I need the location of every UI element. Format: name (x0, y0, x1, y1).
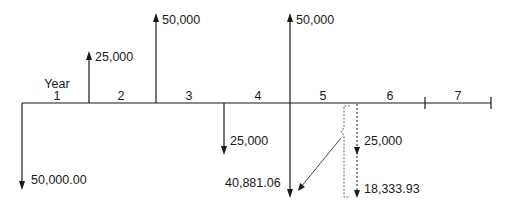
period-label-1: 1 (54, 90, 61, 103)
dashed-outflow-arrows (354, 104, 360, 198)
period-label-3: 3 (186, 90, 193, 103)
period-label-6: 6 (387, 90, 394, 103)
inflow-label-year4: 50,000 (296, 13, 334, 27)
period-label-5: 5 (320, 90, 327, 103)
dashed-outflow-label-1: 25,000 (364, 134, 402, 148)
outflow-label-year3: 25,000 (230, 134, 268, 148)
transfer-arrow (298, 138, 341, 191)
inflow-label-year1: 25,000 (95, 50, 133, 64)
grouping-brace (341, 106, 350, 197)
period-label-4: 4 (255, 90, 262, 103)
dashed-outflow-label-2: 18,333.93 (364, 182, 420, 196)
period-label-2: 2 (118, 90, 125, 103)
inflow-label-year2: 50,000 (162, 13, 200, 27)
outflow-label-year4: 40,881.06 (225, 176, 281, 190)
outflow-label-year0: 50,000.00 (31, 173, 87, 187)
period-label-7: 7 (455, 90, 462, 103)
